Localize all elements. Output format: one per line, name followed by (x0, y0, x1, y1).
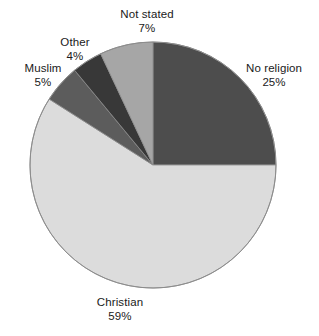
pie-label-christian-name: Christian (65, 296, 175, 310)
pie-label-other-value: 4% (40, 50, 110, 64)
pie-label-other-name: Other (40, 36, 110, 50)
pie-label-christian: Christian 59% (65, 296, 175, 323)
pie-label-muslim-name: Muslim (8, 62, 78, 76)
pie-label-christian-value: 59% (65, 310, 175, 324)
pie-label-not-stated-name: Not stated (92, 8, 202, 22)
pie-label-no-religion: No religion 25% (246, 62, 302, 89)
pie-slice-no-religion[interactable] (153, 42, 276, 165)
pie-label-other: Other 4% (40, 36, 110, 63)
pie-label-muslim-value: 5% (8, 76, 78, 90)
pie-label-no-religion-value: 25% (246, 76, 302, 90)
pie-label-not-stated-value: 7% (92, 22, 202, 36)
pie-label-no-religion-name: No religion (246, 62, 302, 76)
pie-label-not-stated: Not stated 7% (92, 8, 202, 35)
pie-chart: No religion 25% Not stated 7% Other 4% M… (0, 0, 319, 336)
pie-label-muslim: Muslim 5% (8, 62, 78, 89)
